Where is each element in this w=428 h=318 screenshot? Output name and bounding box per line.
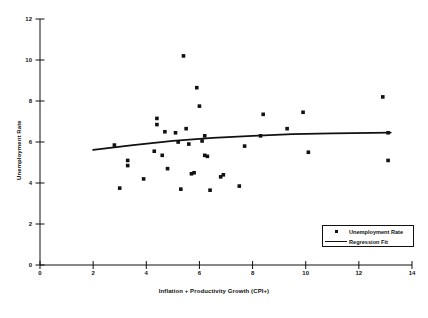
y-tick-label-4: 4 — [18, 180, 32, 186]
regression-fit-line — [93, 133, 391, 150]
x-tick-label-8: 8 — [251, 270, 254, 276]
scatter-chart: Unemployment Rate Inflation + Productivi… — [0, 0, 428, 318]
x-tick-label-6: 6 — [198, 270, 201, 276]
legend-label-regression-fit: Regression Fit — [349, 239, 388, 245]
x-tick-label-2: 2 — [91, 270, 94, 276]
scatter-points — [113, 54, 390, 192]
y-tick-label-8: 8 — [18, 98, 32, 104]
line-segment-icon — [323, 241, 349, 243]
x-tick-label-10: 10 — [302, 270, 309, 276]
legend-item-regression-fit: Regression Fit — [323, 236, 413, 247]
y-axis-title: Unemployment Rate — [16, 120, 22, 180]
y-tick-label-0: 0 — [18, 262, 32, 268]
legend-label-unemployment-rate: Unemployment Rate — [349, 229, 403, 235]
x-tick-label-12: 12 — [356, 270, 363, 276]
chart-legend: Unemployment Rate Regression Fit — [322, 225, 414, 247]
plot-canvas — [0, 0, 428, 318]
y-tick-label-2: 2 — [18, 221, 32, 227]
y-tick-label-12: 12 — [18, 16, 32, 22]
x-tick-label-14: 14 — [409, 270, 416, 276]
x-axis-title: Inflation + Productivity Growth (CPI+) — [0, 288, 428, 294]
y-tick-label-10: 10 — [18, 57, 32, 63]
x-tick-label-0: 0 — [38, 270, 41, 276]
x-tick-label-4: 4 — [145, 270, 148, 276]
y-tick-label-6: 6 — [18, 139, 32, 145]
square-marker-icon — [323, 230, 349, 233]
